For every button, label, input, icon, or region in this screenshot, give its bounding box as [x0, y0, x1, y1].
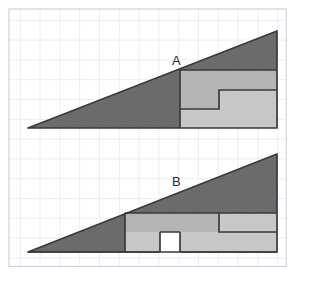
puzzle-canvas: A B: [0, 0, 309, 281]
figure-b-missing-square: [160, 232, 180, 252]
missing-square-figure: [0, 0, 309, 281]
figure-b-step-block-left: [125, 213, 219, 232]
figure-b-label: B: [172, 175, 181, 188]
figure-a-label: A: [172, 54, 181, 67]
